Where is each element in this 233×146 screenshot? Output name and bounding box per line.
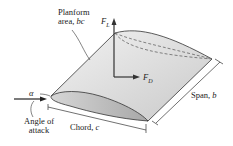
- angle-of-attack-label: Angle of attack: [24, 117, 54, 135]
- lift-label: FL: [101, 17, 110, 30]
- chord-label: Chord, c: [70, 123, 99, 132]
- alpha-label: α: [29, 89, 33, 98]
- span-label: Span, b: [191, 91, 217, 100]
- planform-label: Planform area, bc: [58, 8, 90, 26]
- drag-label: FD: [143, 73, 153, 86]
